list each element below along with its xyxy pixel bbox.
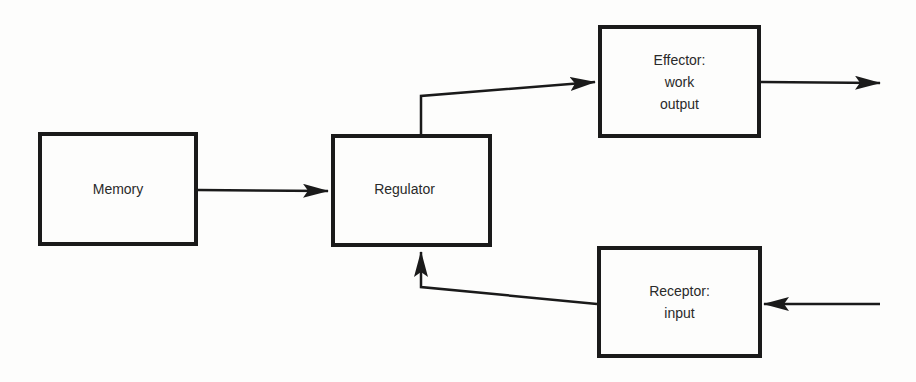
- effector-block: Effector: work output: [598, 25, 761, 138]
- arrow-regulator-to-effector: [421, 82, 595, 134]
- effector-label: Effector: work output: [654, 49, 706, 115]
- regulator-block: Regulator: [331, 134, 492, 247]
- arrow-effector-output: [761, 82, 880, 83]
- arrow-memory-to-regulator: [198, 190, 328, 191]
- diagram-canvas: Memory Regulator Effector: work output R…: [0, 0, 916, 382]
- regulator-label: Regulator: [374, 178, 435, 200]
- receptor-block: Receptor: input: [597, 246, 762, 358]
- receptor-label: Receptor: input: [649, 280, 710, 324]
- arrow-receptor-to-regulator: [421, 252, 597, 304]
- memory-block: Memory: [38, 132, 198, 246]
- memory-label: Memory: [93, 178, 144, 200]
